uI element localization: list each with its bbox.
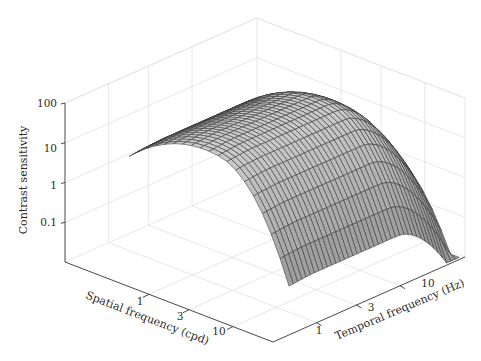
y-tick-label-1: 1 bbox=[316, 324, 323, 336]
x-tick-label-1: 1 bbox=[137, 295, 144, 307]
z-tick bbox=[61, 103, 65, 104]
y-tick bbox=[400, 286, 405, 289]
x-axis-label: Spatial frequency (cpd) bbox=[84, 289, 211, 348]
z-tick-label-1: 1 bbox=[50, 179, 57, 191]
z-tick bbox=[61, 143, 65, 144]
x-tick bbox=[183, 310, 189, 313]
x-tick bbox=[143, 294, 149, 297]
z-tick-label-10: 10 bbox=[44, 142, 57, 154]
y-tick-label-10: 10 bbox=[421, 277, 434, 289]
x-tick-label-3: 3 bbox=[177, 310, 184, 322]
contrast-sensitivity-surface bbox=[129, 92, 459, 286]
z-grid-line bbox=[65, 18, 257, 103]
z-grid-line bbox=[257, 18, 465, 98]
y-tick-label-3: 3 bbox=[368, 301, 375, 313]
x-tick-label-10: 10 bbox=[212, 325, 225, 337]
z-tick bbox=[61, 222, 65, 223]
z-tick-label-0.1: 0.1 bbox=[40, 216, 57, 228]
z-tick bbox=[61, 183, 65, 184]
z-tick-label-100: 100 bbox=[37, 97, 57, 109]
y-tick bbox=[356, 305, 361, 308]
x-tick bbox=[227, 327, 233, 330]
surface-plot: 100 10 1 0.1 Contrast sensitivity 1 3 10… bbox=[0, 0, 481, 361]
z-axis-label: Contrast sensitivity bbox=[17, 125, 30, 234]
